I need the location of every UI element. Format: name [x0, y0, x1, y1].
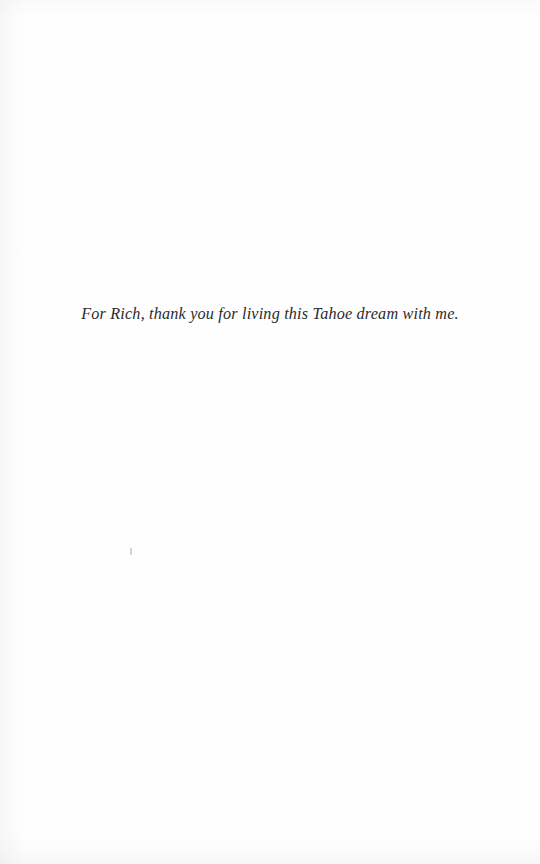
dedication-page: For Rich, thank you for living this Taho…: [0, 0, 540, 864]
scan-bottom-shadow: [0, 834, 540, 864]
scan-gutter-shadow: [0, 0, 26, 864]
dedication-block: For Rich, thank you for living this Taho…: [0, 303, 540, 325]
scan-top-shadow: [0, 0, 540, 18]
dedication-text: For Rich, thank you for living this Taho…: [81, 303, 459, 325]
scan-speck: [130, 548, 132, 555]
